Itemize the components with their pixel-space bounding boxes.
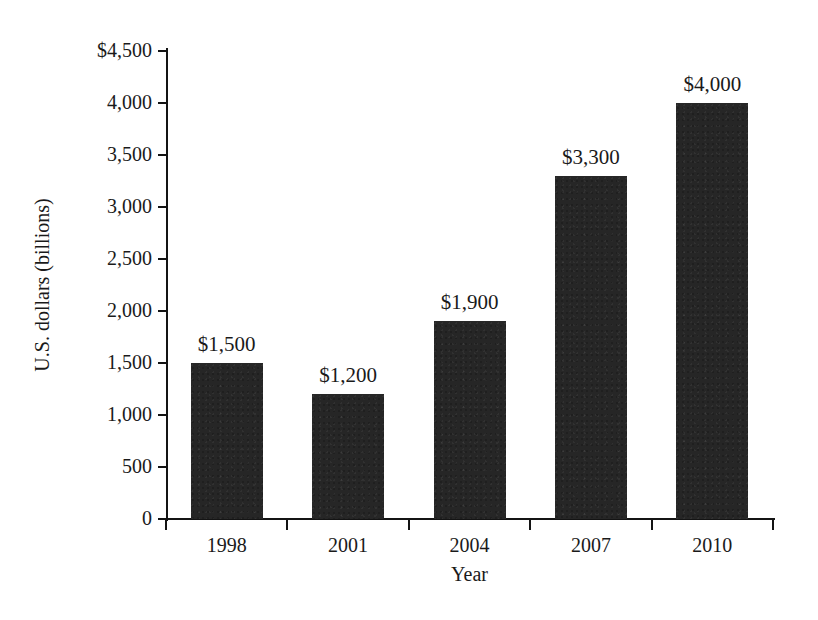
y-tick-label-row: 3,000 <box>0 196 152 216</box>
y-tick-label: 1,000 <box>107 404 152 424</box>
y-tick-label-row: 1,500 <box>0 352 152 372</box>
x-axis-title: Year <box>166 562 773 586</box>
x-tick-mark <box>651 519 653 530</box>
y-tick-mark <box>158 466 167 468</box>
y-tick-mark <box>158 310 167 312</box>
y-tick-label-row: 2,500 <box>0 248 152 268</box>
x-tick-label: 2010 <box>652 533 773 557</box>
x-tick-mark <box>408 519 410 530</box>
y-tick-label-row: 3,500 <box>0 144 152 164</box>
y-tick-label: 3,500 <box>107 144 152 164</box>
bar <box>434 321 506 519</box>
y-tick-mark <box>158 102 167 104</box>
y-axis-title: U.S. dollars (billions) <box>31 165 53 405</box>
x-tick-label: 2004 <box>409 533 530 557</box>
y-tick-label-row: $4,500 <box>0 40 152 60</box>
y-tick-mark <box>158 206 167 208</box>
bar-value-label: $1,900 <box>405 291 535 313</box>
y-axis-line <box>166 48 168 521</box>
y-tick-mark <box>158 258 167 260</box>
y-tick-label: 3,000 <box>107 196 152 216</box>
y-tick-mark <box>158 50 167 52</box>
y-tick-mark <box>158 154 167 156</box>
y-tick-label-row: 1,000 <box>0 404 152 424</box>
y-tick-label-row: 2,000 <box>0 300 152 320</box>
bar <box>191 363 263 519</box>
y-tick-label: $4,500 <box>97 40 152 60</box>
x-tick-label: 2001 <box>288 533 409 557</box>
y-tick-mark <box>158 414 167 416</box>
x-tick-mark <box>165 519 167 530</box>
y-tick-label-row: 4,000 <box>0 92 152 112</box>
x-tick-mark <box>529 519 531 530</box>
bar-value-label: $1,500 <box>162 333 292 355</box>
x-tick-mark <box>772 519 774 530</box>
bar <box>676 103 748 519</box>
y-tick-label: 500 <box>122 456 152 476</box>
y-tick-label: 2,500 <box>107 248 152 268</box>
x-tick-mark <box>286 519 288 530</box>
bar-value-label: $4,000 <box>647 73 777 95</box>
y-tick-label-row: 500 <box>0 456 152 476</box>
bar <box>312 394 384 519</box>
bar-value-label: $3,300 <box>526 146 656 168</box>
chart-page: 05001,0001,5002,0002,5003,0003,5004,000$… <box>0 0 818 620</box>
y-tick-label-row: 0 <box>0 508 152 528</box>
bar <box>555 176 627 519</box>
y-tick-mark <box>158 362 167 364</box>
x-tick-label: 1998 <box>166 533 287 557</box>
y-tick-label: 2,000 <box>107 300 152 320</box>
y-tick-label: 1,500 <box>107 352 152 372</box>
bar-value-label: $1,200 <box>283 364 413 386</box>
x-tick-label: 2007 <box>530 533 651 557</box>
y-tick-label: 4,000 <box>107 92 152 112</box>
y-tick-label: 0 <box>142 508 152 528</box>
